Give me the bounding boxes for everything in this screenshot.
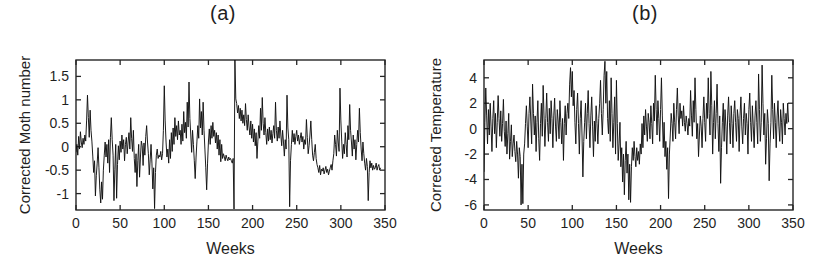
y-axis-title: Corrected Temperature (427, 58, 444, 212)
y-tick-label: 0.5 (50, 115, 70, 131)
panel-a: (a) 0501001502002503003501.510.50-0.5-1W… (0, 0, 410, 268)
y-tick-label: -0.5 (45, 162, 69, 178)
y-tick-label: 2 (469, 95, 477, 111)
data-trace (76, 60, 381, 209)
y-tick-label: -2 (465, 146, 478, 162)
panel-b: (b) 050100150200250300350420-2-4-6WeeksC… (410, 0, 820, 268)
y-tick-label: -4 (465, 171, 478, 187)
x-tick-label: 50 (112, 215, 128, 231)
x-tick-label: 250 (285, 215, 309, 231)
x-tick-label: 200 (649, 215, 673, 231)
x-axis-title: Weeks (206, 240, 255, 257)
x-tick-label: 350 (373, 215, 397, 231)
x-tick-label: 150 (605, 215, 629, 231)
x-tick-label: 300 (329, 215, 353, 231)
y-axis-title: Corrected Moth number (16, 56, 33, 214)
y-tick-label: 0 (61, 139, 69, 155)
panel-b-plot: 050100150200250300350420-2-4-6WeeksCorre… (410, 0, 820, 268)
x-tick-label: 0 (480, 215, 488, 231)
figure-container: (a) 0501001502002503003501.510.50-0.5-1W… (0, 0, 820, 268)
y-tick-label: -6 (465, 197, 478, 213)
x-tick-label: 100 (561, 215, 585, 231)
x-tick-label: 200 (241, 215, 265, 231)
data-trace (484, 61, 789, 205)
x-axis-title: Weeks (614, 240, 663, 257)
y-tick-label: 0 (469, 121, 477, 137)
y-tick-label: -1 (57, 186, 70, 202)
panel-a-plot: 0501001502002503003501.510.50-0.5-1Weeks… (0, 0, 410, 268)
plot-frame (484, 60, 793, 210)
x-tick-label: 50 (520, 215, 536, 231)
x-tick-label: 150 (197, 215, 221, 231)
y-tick-label: 1 (61, 92, 69, 108)
y-tick-label: 4 (469, 70, 477, 86)
x-tick-label: 100 (153, 215, 177, 231)
x-tick-label: 300 (737, 215, 761, 231)
y-tick-label: 1.5 (50, 68, 70, 84)
x-tick-label: 250 (693, 215, 717, 231)
x-tick-label: 0 (72, 215, 80, 231)
x-tick-label: 350 (781, 215, 805, 231)
